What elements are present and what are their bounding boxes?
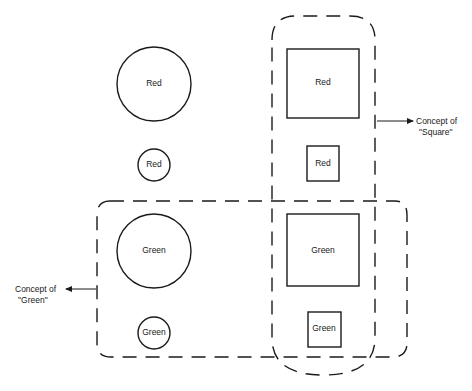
concept-green-line2: "Green" — [18, 295, 48, 305]
shape-label: Red — [146, 78, 162, 88]
small-green-circle: Green — [138, 317, 170, 349]
shape-label: Green — [142, 245, 166, 255]
concept-square-line2: "Square" — [419, 127, 452, 137]
concept-square-line1: Concept of — [416, 116, 458, 126]
small-red-square: Red — [307, 146, 339, 181]
large-red-square: Red — [287, 49, 359, 118]
large-green-circle: Green — [117, 214, 191, 288]
shape-label: Red — [315, 158, 331, 168]
small-red-circle: Red — [138, 149, 170, 181]
shape-label: Green — [311, 245, 335, 255]
shape-label: Green — [312, 323, 336, 333]
shape-label: Red — [315, 77, 331, 87]
shape-label: Red — [146, 159, 162, 169]
concept-green-line1: Concept of — [15, 284, 57, 294]
concept-square-annotation: Concept of "Square" — [377, 116, 458, 137]
large-green-square: Green — [287, 214, 359, 286]
shape-label: Green — [142, 327, 166, 337]
large-red-circle: Red — [117, 47, 191, 121]
concept-diagram: Red Red Red Red Green Green Green Green … — [0, 0, 472, 391]
concept-green-annotation: Concept of "Green" — [15, 284, 96, 305]
small-green-square: Green — [308, 312, 341, 347]
